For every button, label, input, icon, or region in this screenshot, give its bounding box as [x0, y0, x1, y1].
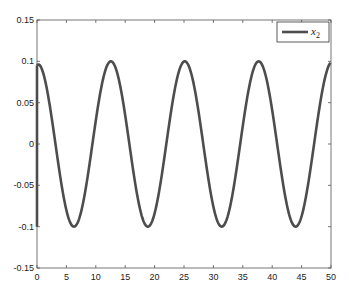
- x-tick-label: 30: [208, 272, 218, 282]
- x-tick-label: 0: [34, 272, 39, 282]
- y-tick-label: 0: [29, 139, 34, 149]
- x-tick-label: 40: [267, 272, 277, 282]
- series-x2-line: [37, 61, 330, 226]
- y-tick-label: 0.1: [21, 56, 34, 66]
- plot-frame: [37, 20, 331, 268]
- legend: x2: [277, 22, 329, 42]
- x-tick-label: 25: [179, 272, 189, 282]
- x-tick-label: 35: [238, 272, 248, 282]
- y-tick-label: 0.15: [16, 15, 34, 25]
- y-tick-label: -0.15: [13, 263, 34, 273]
- x-tick-label: 20: [150, 272, 160, 282]
- x-tick-label: 5: [64, 272, 69, 282]
- x-tick-label: 45: [297, 272, 307, 282]
- y-tick-label: 0.05: [16, 98, 34, 108]
- x-tick-label: 10: [91, 272, 101, 282]
- y-tick-label: -0.1: [18, 222, 34, 232]
- y-tick-label: -0.05: [13, 180, 34, 190]
- axes: 05101520253035404550-0.15-0.1-0.0500.050…: [13, 15, 336, 282]
- line-chart: 05101520253035404550-0.15-0.1-0.0500.050…: [0, 0, 349, 303]
- x-tick-label: 15: [120, 272, 130, 282]
- x-tick-label: 50: [326, 272, 336, 282]
